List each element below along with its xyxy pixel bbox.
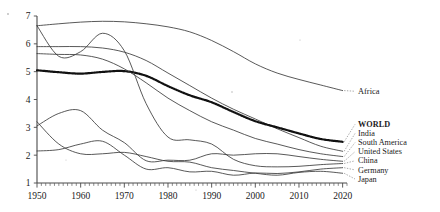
x-tick-label: 1990 — [202, 191, 221, 201]
leader-line-south-america — [344, 143, 355, 157]
series-line-india — [37, 47, 343, 152]
y-tick-label: 4 — [26, 95, 31, 105]
series-line-south-america — [37, 54, 343, 157]
fertility-rate-line-chart: 1234567 19501960197019801990200020102020… — [0, 0, 440, 212]
leader-line-china — [344, 161, 355, 164]
legend-label-world: WORLD — [358, 120, 390, 129]
legend-label-china: China — [358, 156, 378, 165]
y-tick-label: 7 — [26, 11, 31, 21]
y-axis: 1234567 — [26, 11, 37, 188]
leader-line-africa — [344, 91, 354, 92]
y-tick-label: 6 — [26, 39, 31, 49]
leader-line-united-states — [344, 152, 355, 162]
x-tick-label: 2020 — [333, 191, 352, 201]
scan-artifacts — [7, 13, 301, 190]
y-tick-label: 1 — [26, 178, 31, 188]
legend-label-japan: Japan — [358, 175, 377, 184]
leader-line-india — [344, 134, 355, 152]
series-line-world — [37, 70, 343, 142]
x-tick-label: 2010 — [289, 191, 308, 201]
leader-lines — [344, 124, 355, 179]
y-tick-label: 2 — [26, 151, 31, 161]
leader-line-germany — [344, 168, 355, 170]
series-line-africa — [37, 21, 343, 90]
series-line-germany — [37, 141, 343, 176]
chart-canvas: 1234567 19501960197019801990200020102020… — [0, 0, 440, 212]
annotations: Africa — [344, 87, 380, 96]
y-tick-label: 3 — [26, 123, 31, 133]
legend-label-united-states: United States — [358, 147, 402, 156]
legend-label-south-america: South America — [358, 138, 407, 147]
series-line-japan — [37, 122, 343, 175]
legend-label-india: India — [358, 129, 375, 138]
x-tick-label: 1960 — [71, 191, 90, 201]
x-tick-label: 1950 — [28, 191, 47, 201]
x-axis: 19501960197019801990200020102020 — [28, 183, 353, 201]
legend: WORLDIndiaSouth AmericaUnited StatesChin… — [358, 120, 407, 184]
series-lines — [37, 21, 343, 175]
x-tick-label: 2000 — [246, 191, 265, 201]
y-tick-label: 5 — [26, 67, 31, 77]
x-tick-label: 1980 — [158, 191, 177, 201]
leader-line-world — [344, 124, 355, 141]
leader-line-japan — [344, 173, 355, 179]
x-tick-label: 1970 — [115, 191, 134, 201]
legend-label-germany: Germany — [358, 166, 389, 175]
annotation-label-africa: Africa — [358, 87, 380, 96]
